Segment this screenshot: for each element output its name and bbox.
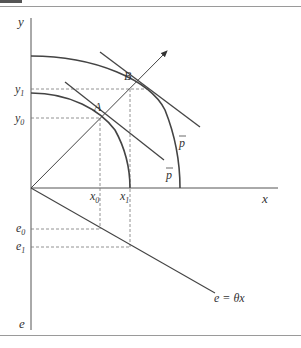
- production-diagram: y x e B A y1 y0 x0 x1 e0 e1 p p e = θx: [0, 0, 301, 348]
- y-axis-label: y: [16, 14, 24, 29]
- emission-equation-label: e = θx: [214, 291, 245, 305]
- e-axis-label: e: [19, 316, 25, 331]
- expansion-ray: [31, 51, 167, 188]
- x1-label: x1: [119, 189, 129, 205]
- e1-label: e1: [16, 239, 25, 255]
- point-a-label: A: [93, 100, 102, 114]
- outer-price-line: [100, 52, 200, 127]
- guide-lines: [31, 89, 151, 247]
- outer-price-label: p: [178, 136, 186, 150]
- svg-text:p: p: [178, 136, 185, 150]
- outer-frontier-curve: [31, 56, 180, 188]
- x-axis-label: x: [261, 191, 268, 206]
- point-b-label: B: [124, 69, 132, 83]
- e0-label: e0: [16, 221, 25, 237]
- svg-text:p: p: [165, 168, 172, 182]
- inner-price-line: [65, 82, 164, 160]
- emission-line: [31, 188, 215, 293]
- inner-price-label: p: [165, 168, 173, 182]
- y1-label: y1: [14, 82, 24, 98]
- y0-label: y0: [14, 111, 24, 127]
- x0-label: x0: [89, 189, 99, 205]
